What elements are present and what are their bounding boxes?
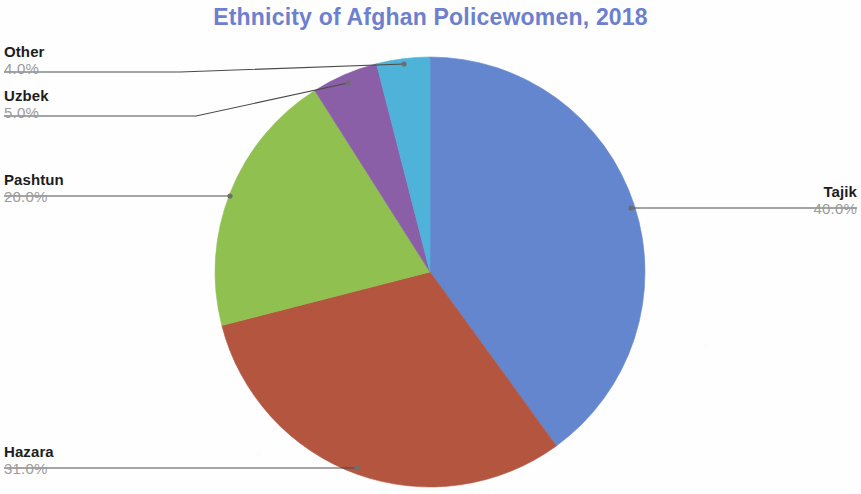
slice-label-pashtun-category: Pashtun	[4, 172, 64, 188]
slice-label-tajik-percent: 40.0%	[813, 201, 857, 217]
slice-label-uzbek-category: Uzbek	[4, 88, 49, 104]
slice-label-tajik-category: Tajik	[813, 184, 857, 200]
slice-label-pashtun: Pashtun 20.0%	[4, 172, 64, 204]
slice-label-hazara: Hazara 31.0%	[4, 444, 54, 476]
leader-line-other	[4, 64, 404, 72]
slice-label-hazara-category: Hazara	[4, 444, 54, 460]
pie-chart-graphic	[0, 0, 861, 494]
slice-label-other: Other 4.0%	[4, 44, 45, 76]
leader-dot-uzbek	[345, 80, 350, 85]
leader-dot-hazara	[354, 465, 359, 470]
slice-label-uzbek: Uzbek 5.0%	[4, 88, 49, 120]
slice-label-other-category: Other	[4, 44, 45, 60]
slice-label-other-percent: 4.0%	[4, 61, 45, 77]
leader-dot-other	[401, 61, 406, 66]
leader-dot-tajik	[628, 205, 633, 210]
slice-label-tajik: Tajik 40.0%	[813, 184, 857, 216]
slice-label-uzbek-percent: 5.0%	[4, 105, 49, 121]
slice-label-pashtun-percent: 20.0%	[4, 189, 64, 205]
pie-chart-page: Ethnicity of Afghan Policewomen, 2018	[0, 0, 861, 494]
slice-label-hazara-percent: 31.0%	[4, 461, 54, 477]
leader-dot-pashtun	[227, 193, 232, 198]
